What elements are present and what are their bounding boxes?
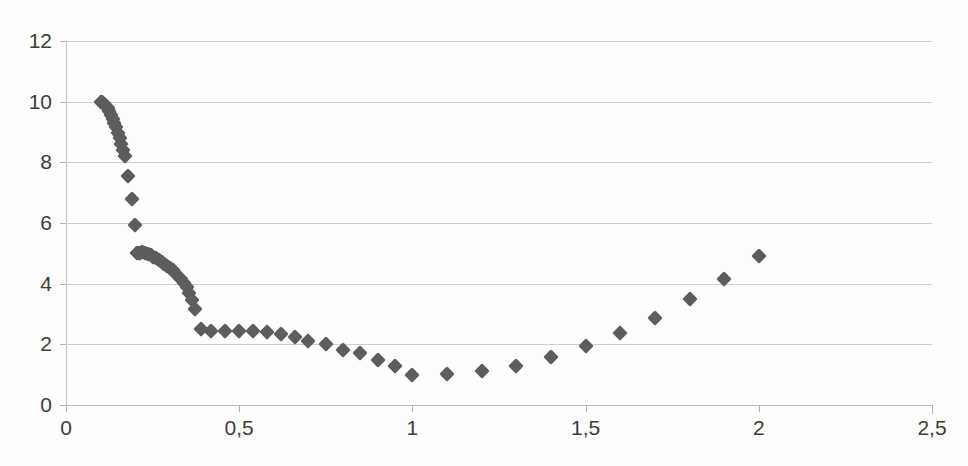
data-point <box>509 358 525 374</box>
data-point <box>682 292 698 308</box>
y-axis-label: 8 <box>0 150 52 174</box>
scatter-chart: 024681012 00,511,522,5 <box>0 0 968 466</box>
data-point <box>474 363 490 379</box>
data-point <box>647 310 663 326</box>
data-point <box>751 249 767 265</box>
data-point <box>578 338 594 354</box>
y-axis-label: 2 <box>0 332 52 356</box>
x-tick-mark-1 <box>412 405 413 412</box>
x-tick-mark-1,5 <box>586 405 587 412</box>
data-point <box>405 367 421 383</box>
data-point <box>353 346 369 362</box>
data-point <box>543 349 559 365</box>
data-point <box>335 343 351 359</box>
data-point <box>387 358 403 374</box>
gridline-y-0 <box>66 405 932 406</box>
x-axis-label: 0,5 <box>225 416 254 440</box>
x-axis-label: 2,5 <box>917 416 946 440</box>
data-point <box>301 333 317 349</box>
x-tick-mark-0 <box>66 405 67 412</box>
x-axis-label: 1,5 <box>571 416 600 440</box>
data-point <box>127 217 143 233</box>
data-point <box>439 366 455 382</box>
data-point <box>259 324 275 340</box>
y-axis-label: 12 <box>0 29 52 53</box>
x-axis-label: 2 <box>753 416 765 440</box>
y-axis-label: 4 <box>0 272 52 296</box>
y-axis-label: 6 <box>0 211 52 235</box>
data-point <box>273 326 289 342</box>
x-tick-mark-0,5 <box>239 405 240 412</box>
x-tick-mark-2 <box>759 405 760 412</box>
y-axis-label: 10 <box>0 90 52 114</box>
data-point <box>124 191 140 207</box>
x-axis-label: 1 <box>407 416 419 440</box>
data-point <box>370 352 386 368</box>
x-tick-mark-2,5 <box>932 405 933 412</box>
data-point <box>318 337 334 353</box>
data-point <box>287 329 303 345</box>
data-point <box>612 325 628 341</box>
y-axis-label: 0 <box>0 393 52 417</box>
x-axis-label: 0 <box>60 416 72 440</box>
data-point <box>716 271 732 287</box>
plot-area <box>66 41 932 405</box>
data-point <box>121 168 137 184</box>
